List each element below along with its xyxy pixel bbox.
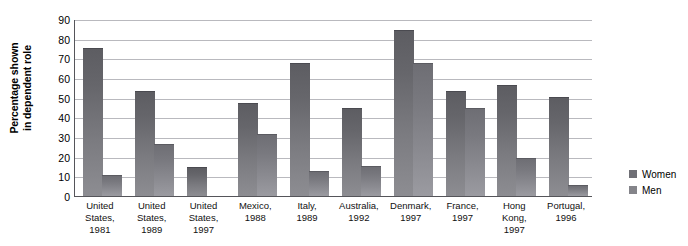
x-axis-label-line: Portugal, <box>540 200 592 212</box>
bar-women <box>290 63 310 196</box>
x-axis-label: Australia,1992 <box>333 200 385 224</box>
x-axis-label-line: Denmark, <box>385 200 437 212</box>
legend: WomenMen <box>629 166 676 198</box>
y-axis-tick-label: 30 <box>44 133 70 143</box>
y-axis-title-line2: in dependent role <box>21 28 34 148</box>
x-axis-label-line: 1989 <box>126 224 178 236</box>
y-axis-title: Percentage shown in dependent role <box>8 28 34 148</box>
legend-item[interactable]: Men <box>629 182 676 198</box>
bar-women <box>187 167 207 196</box>
y-axis-tick-label: 60 <box>44 74 70 84</box>
bar-chart: Percentage shown in dependent role 01020… <box>0 0 688 246</box>
bar-women <box>446 91 466 196</box>
x-axis-label: UnitedStates,1997 <box>178 200 230 235</box>
bar-men <box>516 158 536 196</box>
bar-women <box>394 30 414 196</box>
bar-men <box>413 63 433 196</box>
bar-women <box>135 91 155 196</box>
bar-women <box>549 97 569 196</box>
bar-men <box>154 144 174 196</box>
x-axis-label-line: United <box>74 200 126 212</box>
bar-women <box>238 103 258 196</box>
x-axis-label: UnitedStates,1981 <box>74 200 126 235</box>
bar-women <box>497 85 517 196</box>
bar-men <box>102 175 122 196</box>
y-axis-tick-label: 50 <box>44 94 70 104</box>
bar-group <box>83 20 127 196</box>
x-axis-label: France,1997 <box>437 200 489 224</box>
y-axis-tick-label: 20 <box>44 153 70 163</box>
x-axis-label: Portugal,1996 <box>540 200 592 224</box>
bar-men <box>361 166 381 197</box>
y-axis-tick-label: 80 <box>44 35 70 45</box>
x-axis-label-line: 1988 <box>229 212 281 224</box>
legend-item[interactable]: Women <box>629 166 676 182</box>
y-axis-tick-label: 0 <box>44 192 70 202</box>
x-axis-label-line: Australia, <box>333 200 385 212</box>
x-axis-label-line: States, <box>74 212 126 224</box>
legend-swatch-icon <box>629 186 637 194</box>
x-axis-label-line: States, <box>178 212 230 224</box>
bar-women <box>342 108 362 196</box>
x-axis-label-line: 1997 <box>385 212 437 224</box>
y-axis-tick-label: 90 <box>44 15 70 25</box>
x-axis-label: HongKong,1997 <box>488 200 540 235</box>
bar-women <box>83 48 103 197</box>
bar-group <box>342 20 386 196</box>
bar-men <box>465 108 485 196</box>
x-axis-label-line: Mexico, <box>229 200 281 212</box>
x-axis-label-line: 1997 <box>437 212 489 224</box>
bar-men <box>257 134 277 196</box>
x-axis-label-line: United <box>178 200 230 212</box>
bar-men <box>568 185 588 196</box>
plot-area <box>74 20 592 197</box>
bar-group <box>446 20 490 196</box>
legend-label: Women <box>642 169 676 180</box>
bar-group <box>394 20 438 196</box>
x-axis-labels: UnitedStates,1981UnitedStates,1989United… <box>74 200 592 246</box>
legend-label: Men <box>642 185 661 196</box>
x-axis-label-line: Kong, <box>488 212 540 224</box>
x-axis-label-line: United <box>126 200 178 212</box>
bar-group <box>290 20 334 196</box>
x-axis-label-line: France, <box>437 200 489 212</box>
x-axis-label: Italy,1989 <box>281 200 333 224</box>
x-axis-label-line: 1981 <box>74 224 126 236</box>
y-axis-title-line1: Percentage shown <box>8 28 21 148</box>
y-axis-tick-label: 70 <box>44 54 70 64</box>
bar-men <box>309 171 329 196</box>
y-axis-tick-label: 10 <box>44 172 70 182</box>
x-axis-label-line: Italy, <box>281 200 333 212</box>
x-axis-label-line: 1997 <box>178 224 230 236</box>
x-axis-label-line: 1992 <box>333 212 385 224</box>
y-axis-tick-label: 40 <box>44 113 70 123</box>
bar-group <box>135 20 179 196</box>
legend-swatch-icon <box>629 170 637 178</box>
bar-group <box>238 20 282 196</box>
x-axis-label: Denmark,1997 <box>385 200 437 224</box>
x-axis-label-line: 1996 <box>540 212 592 224</box>
x-axis-label-line: 1989 <box>281 212 333 224</box>
bar-group <box>497 20 541 196</box>
bar-group <box>549 20 593 196</box>
x-axis-label-line: States, <box>126 212 178 224</box>
x-axis-label: UnitedStates,1989 <box>126 200 178 235</box>
bar-group <box>187 20 231 196</box>
x-axis-label: Mexico,1988 <box>229 200 281 224</box>
x-axis-label-line: Hong <box>488 200 540 212</box>
x-axis-label-line: 1997 <box>488 224 540 236</box>
